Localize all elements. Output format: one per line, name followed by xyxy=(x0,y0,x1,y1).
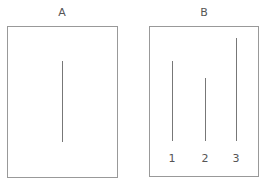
panel-b-label-1: 1 xyxy=(165,152,179,165)
panel-b-title: B xyxy=(194,6,214,19)
panel-a-title: A xyxy=(52,6,72,19)
panel-b-line-3 xyxy=(236,38,237,141)
panel-b-line-2 xyxy=(205,78,206,141)
panel-b-label-3: 3 xyxy=(229,152,243,165)
panel-b-line-1 xyxy=(172,61,173,141)
panel-a-line xyxy=(62,61,63,142)
panel-b-label-2: 2 xyxy=(198,152,212,165)
